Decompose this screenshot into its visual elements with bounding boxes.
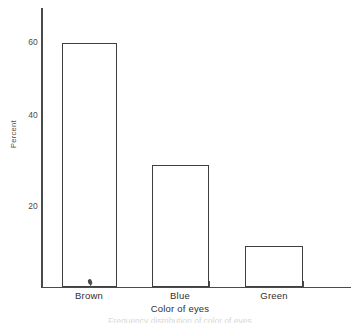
bar-blue[interactable]: [152, 165, 209, 287]
figure-caption: Frequency distribution of color of eyes: [0, 316, 360, 323]
y-axis-line: [41, 8, 43, 288]
chart-page: 60 40 20 Percent Brown Blue Green Color …: [0, 0, 360, 323]
y-tick-60: 60: [0, 38, 38, 48]
x-tick-mark: [303, 281, 304, 287]
x-category-label-blue: Blue: [170, 290, 190, 301]
scan-artifact-speck: [89, 283, 91, 288]
y-tick-20: 20: [0, 202, 38, 212]
bar-green[interactable]: [245, 246, 303, 287]
bar-chart-plot-area: 60 40 20 Percent Brown Blue Green Color …: [0, 0, 360, 323]
y-tick-20-label: 20: [0, 202, 38, 211]
y-tick-40-label: 40: [0, 111, 38, 120]
y-tick-40: 40: [0, 111, 38, 121]
x-axis-title: Color of eyes: [0, 303, 360, 314]
y-axis-title: Percent: [9, 120, 18, 148]
y-tick-60-label: 60: [0, 38, 38, 47]
x-category-label-green: Green: [260, 290, 287, 301]
bar-brown[interactable]: [62, 43, 117, 287]
x-category-label-brown: Brown: [75, 290, 103, 301]
x-tick-mark: [209, 281, 210, 287]
